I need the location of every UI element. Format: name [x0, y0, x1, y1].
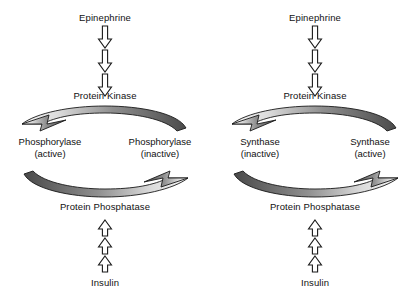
- right-substrate: Phosphorylase (inactive): [114, 136, 206, 159]
- protein-kinase-label: Protein Kinase: [0, 90, 210, 101]
- top-stimulus-label: Epinephrine: [210, 12, 420, 23]
- up-arrow-icon: [305, 237, 325, 255]
- right-substrate-name: Synthase: [350, 136, 390, 147]
- phosphorylase-cycle: Epinephrine Protein Kinase: [0, 0, 210, 300]
- epinephrine-to-kinase-arrows: [305, 25, 325, 97]
- bottom-stimulus-label: Insulin: [210, 277, 420, 288]
- left-substrate: Phosphorylase (active): [4, 136, 96, 159]
- left-substrate-name: Phosphorylase: [19, 136, 82, 147]
- right-substrate-name: Phosphorylase: [129, 136, 192, 147]
- right-substrate-state: (active): [324, 148, 416, 160]
- insulin-to-phosphatase-arrows: [305, 219, 325, 273]
- epinephrine-to-kinase-arrows: [95, 25, 115, 97]
- right-substrate-state: (inactive): [114, 148, 206, 160]
- up-arrow-icon: [305, 219, 325, 237]
- down-arrow-icon: [305, 49, 325, 73]
- protein-phosphatase-label: Protein Phosphatase: [0, 201, 210, 212]
- down-arrow-icon: [95, 25, 115, 49]
- left-substrate: Synthase (inactive): [214, 136, 306, 159]
- left-substrate-state: (active): [4, 148, 96, 160]
- right-substrate: Synthase (active): [324, 136, 416, 159]
- up-arrow-icon: [95, 237, 115, 255]
- down-arrow-icon: [305, 25, 325, 49]
- down-arrow-icon: [95, 49, 115, 73]
- left-substrate-name: Synthase: [240, 136, 280, 147]
- insulin-to-phosphatase-arrows: [95, 219, 115, 273]
- bottom-stimulus-label: Insulin: [0, 277, 210, 288]
- protein-kinase-label: Protein Kinase: [210, 90, 420, 101]
- signaling-cycles-diagram: Epinephrine Protein Kinase: [0, 0, 420, 300]
- protein-phosphatase-label: Protein Phosphatase: [210, 201, 420, 212]
- left-substrate-state: (inactive): [214, 148, 306, 160]
- up-arrow-icon: [95, 255, 115, 273]
- synthase-cycle: Epinephrine Protein Kinase: [210, 0, 420, 300]
- up-arrow-icon: [305, 255, 325, 273]
- top-stimulus-label: Epinephrine: [0, 12, 210, 23]
- up-arrow-icon: [95, 219, 115, 237]
